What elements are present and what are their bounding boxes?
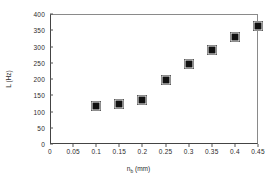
- x-axis-tick-label: 0.25: [159, 148, 172, 155]
- data-point-marker: [184, 60, 193, 69]
- y-axis-tick-mark: [50, 79, 53, 80]
- y-axis-tick-label: 250: [34, 59, 45, 66]
- data-point-marker: [161, 75, 170, 84]
- x-axis-tick-mark: [211, 144, 212, 147]
- chart-root: 050100150200250300350400 L (Hz) nb (mm) …: [0, 0, 277, 184]
- y-axis-tick-labels: 050100150200250300350400: [0, 0, 45, 184]
- y-axis-tick-mark: [50, 30, 53, 31]
- plot-area: [50, 14, 258, 144]
- x-axis-tick-label: 0.45: [251, 148, 264, 155]
- x-axis-title: nb (mm): [0, 165, 277, 174]
- data-point-marker: [92, 101, 101, 110]
- y-axis-tick-label: 150: [34, 92, 45, 99]
- x-axis-tick-label: 0.35: [205, 148, 218, 155]
- x-axis-tick-mark: [188, 144, 189, 147]
- y-axis-tick-label: 300: [34, 43, 45, 50]
- y-axis-tick-label: 50: [37, 124, 45, 131]
- x-axis-tick-mark: [142, 144, 143, 147]
- y-axis-tick-label: 350: [34, 27, 45, 34]
- y-axis-tick-label: 0: [41, 141, 45, 148]
- x-axis-tick-mark: [165, 144, 166, 147]
- y-axis-tick-mark: [50, 46, 53, 47]
- x-axis-tick-mark: [234, 144, 235, 147]
- x-axis-tick-label: 0: [48, 148, 52, 155]
- y-axis-tick-mark: [50, 14, 53, 15]
- x-axis-tick-label: 0.3: [184, 148, 194, 155]
- y-axis-title: L (Hz): [5, 70, 12, 87]
- data-point-marker: [138, 96, 147, 105]
- y-axis-tick-label: 100: [34, 108, 45, 115]
- data-point-marker: [254, 22, 263, 31]
- data-point-marker: [207, 46, 216, 55]
- x-axis-tick-mark: [73, 144, 74, 147]
- x-axis-tick-label: 0.05: [66, 148, 79, 155]
- x-axis-tick-mark: [258, 144, 259, 147]
- y-axis-tick-mark: [50, 95, 53, 96]
- x-axis-tick-mark: [96, 144, 97, 147]
- x-axis-tick-mark: [119, 144, 120, 147]
- x-axis-title-unit: (mm): [133, 165, 150, 172]
- y-axis-tick-mark: [50, 144, 53, 145]
- x-axis-tick-label: 0.4: [230, 148, 240, 155]
- x-axis-tick-label: 0.2: [138, 148, 148, 155]
- y-axis-tick-mark: [50, 127, 53, 128]
- data-point-marker: [115, 100, 124, 109]
- data-point-marker: [230, 32, 239, 41]
- y-axis-tick-label: 200: [34, 76, 45, 83]
- y-axis-tick-mark: [50, 62, 53, 63]
- y-axis-tick-label: 400: [34, 11, 45, 18]
- x-axis-tick-label: 0.15: [113, 148, 126, 155]
- x-axis-tick-label: 0.1: [91, 148, 101, 155]
- y-axis-tick-mark: [50, 111, 53, 112]
